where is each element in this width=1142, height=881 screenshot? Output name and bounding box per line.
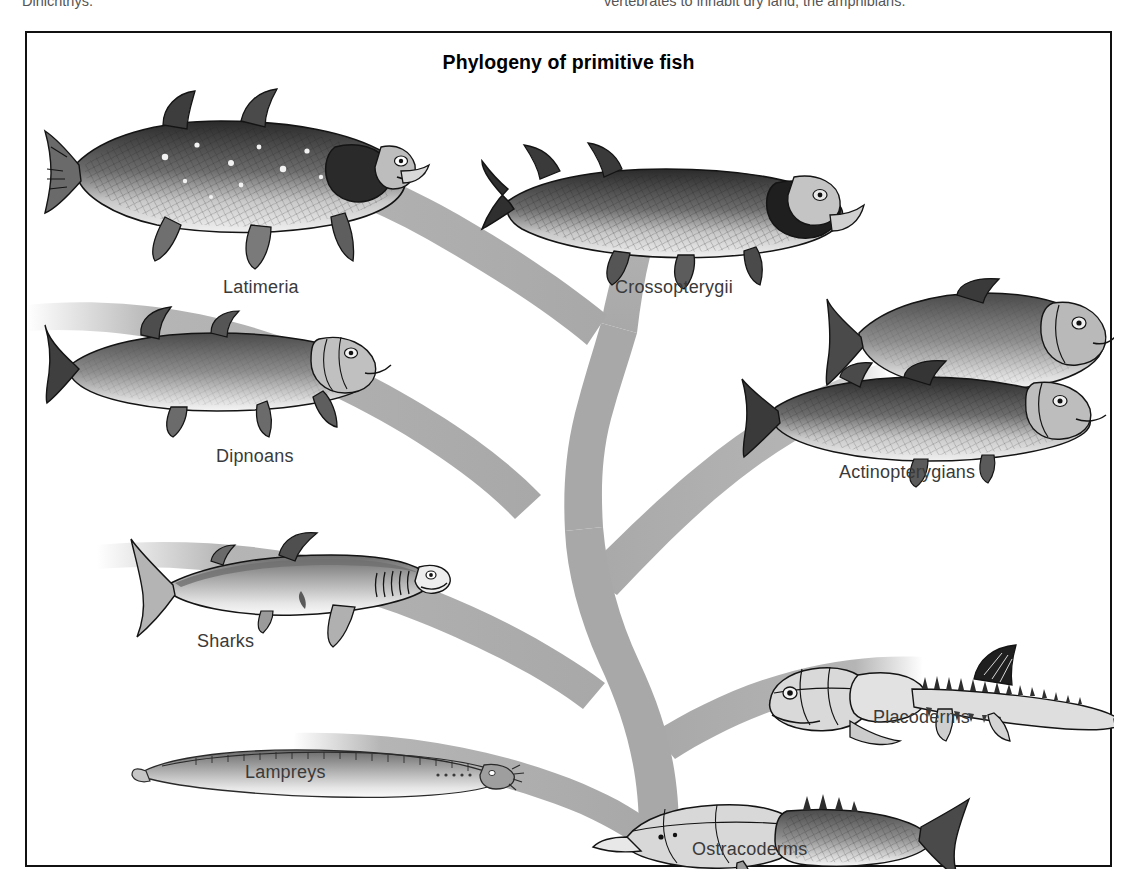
- tree-branch-dipnoans: [27, 302, 541, 519]
- page-text-left-value: Dinichthys.: [22, 0, 93, 8]
- illustration-placoderms: [770, 645, 1114, 744]
- taxon-label-latimeria: Latimeria: [223, 277, 299, 298]
- page-text-right-value: vertebrates to inhabit dry land, the amp…: [604, 0, 905, 8]
- taxon-label-ostracoderms: Ostracoderms: [692, 839, 807, 860]
- page-text-fragment-left: Dinichthys.: [22, 0, 93, 13]
- taxon-label-actinopterygians: Actinopterygians: [839, 462, 975, 483]
- phylogeny-tree-canvas: [27, 33, 1114, 869]
- figure-frame: Phylogeny of primitive fish: [25, 31, 1112, 867]
- page-text-fragment-right: vertebrates to inhabit dry land, the amp…: [604, 0, 905, 13]
- taxon-label-placoderms: Placoderms: [873, 707, 970, 728]
- taxon-label-sharks: Sharks: [197, 631, 254, 652]
- taxon-label-crossopterygii: Crossopterygii: [615, 277, 733, 298]
- taxon-label-dipnoans: Dipnoans: [216, 446, 294, 467]
- illustration-latimeria: [45, 89, 429, 269]
- taxon-label-lampreys: Lampreys: [245, 762, 326, 783]
- tree-trunk-upper: [564, 323, 637, 531]
